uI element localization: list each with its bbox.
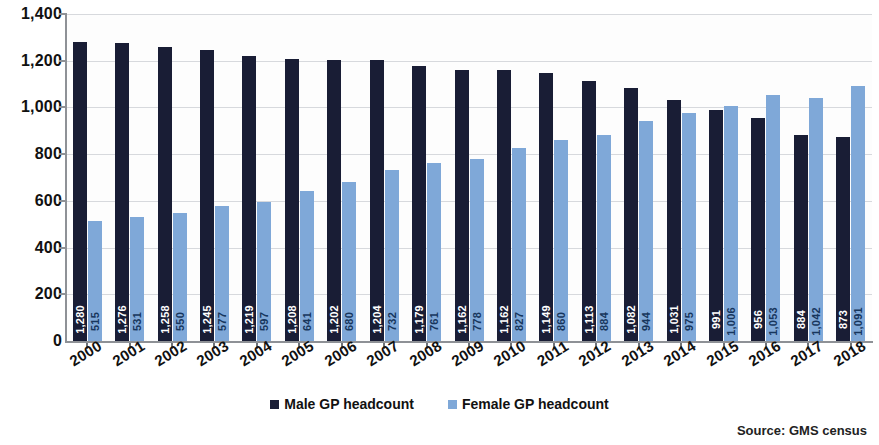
- y-axis-tick: [59, 106, 66, 108]
- bar-female[interactable]: 732: [385, 170, 399, 341]
- bar-male[interactable]: 1,276: [115, 43, 129, 341]
- bar-group: 1,219597: [236, 14, 278, 341]
- bar-group: 9911,006: [702, 14, 744, 341]
- bar-value-label: 680: [344, 312, 355, 331]
- bar-group: 1,276531: [108, 14, 150, 341]
- bar-male[interactable]: 884: [794, 135, 808, 341]
- x-axis-cell: 2017: [787, 343, 829, 395]
- bar-group: 1,202680: [321, 14, 363, 341]
- bar-group: 1,149860: [533, 14, 575, 341]
- y-axis-labels: 02004006008001,0001,2001,400: [0, 0, 62, 445]
- bar-female[interactable]: 860: [554, 140, 568, 341]
- bar-male[interactable]: 1,204: [370, 60, 384, 341]
- bar-female[interactable]: 1,091: [851, 86, 865, 341]
- y-axis-tick-label: 600: [4, 192, 62, 210]
- bar-group: 1,031975: [660, 14, 702, 341]
- x-axis-cell: 2008: [405, 343, 447, 395]
- x-axis-cell: 2003: [193, 343, 235, 395]
- y-axis-tick: [59, 13, 66, 15]
- x-axis-cell: 2012: [575, 343, 617, 395]
- bar-male[interactable]: 1,031: [667, 100, 681, 341]
- bar-group: 1,208641: [278, 14, 320, 341]
- bar-male[interactable]: 1,219: [242, 56, 256, 341]
- bar-female[interactable]: 577: [215, 206, 229, 341]
- bar-value-label: 1,082: [626, 305, 637, 334]
- bar-male[interactable]: 1,280: [73, 42, 87, 341]
- bar-value-label: 1,113: [583, 306, 594, 334]
- bar-value-label: 515: [89, 312, 100, 331]
- y-axis-tick: [59, 60, 66, 62]
- bar-male[interactable]: 956: [751, 118, 765, 341]
- bar-value-label: 1,280: [74, 305, 85, 334]
- bar-female[interactable]: 944: [639, 121, 653, 341]
- x-axis-cell: 2010: [490, 343, 532, 395]
- bar-female[interactable]: 884: [597, 135, 611, 341]
- bar-group: 1,204732: [363, 14, 405, 341]
- bar-value-label: 1,162: [456, 305, 467, 334]
- legend-swatch-male-icon: [270, 400, 279, 409]
- bar-male[interactable]: 1,245: [200, 50, 214, 341]
- x-axis-cell: 2004: [236, 343, 278, 395]
- bar-male[interactable]: 873: [836, 137, 850, 341]
- bar-male[interactable]: 1,258: [158, 47, 172, 341]
- bar-female[interactable]: 1,006: [724, 106, 738, 341]
- bar-group: 1,113884: [575, 14, 617, 341]
- bar-female[interactable]: 1,042: [809, 98, 823, 341]
- x-axis-cell: 2016: [745, 343, 787, 395]
- x-axis-cell: 2018: [830, 343, 872, 395]
- bar-female[interactable]: 975: [682, 113, 696, 341]
- y-axis-tick: [59, 200, 66, 202]
- bar-value-label: 1,258: [159, 305, 170, 334]
- bar-group: 1,179761: [405, 14, 447, 341]
- x-axis-cell: 2007: [363, 343, 405, 395]
- y-axis-tick-label: 800: [4, 145, 62, 163]
- bar-value-label: 991: [711, 310, 722, 329]
- bar-value-label: 1,245: [201, 305, 212, 334]
- bar-value-label: 1,162: [498, 305, 509, 334]
- bar-male[interactable]: 1,179: [412, 66, 426, 341]
- bar-male[interactable]: 1,202: [327, 60, 341, 341]
- legend-item-female[interactable]: Female GP headcount: [448, 396, 609, 412]
- legend-label: Male GP headcount: [284, 396, 414, 412]
- bar-female[interactable]: 680: [342, 182, 356, 341]
- bar-value-label: 860: [556, 312, 567, 331]
- bar-female[interactable]: 1,053: [766, 95, 780, 341]
- y-axis-tick: [59, 293, 66, 295]
- bar-male[interactable]: 1,162: [497, 70, 511, 341]
- bar-female[interactable]: 778: [470, 159, 484, 341]
- bar-value-label: 1,091: [853, 307, 864, 336]
- bar-male[interactable]: 1,208: [285, 59, 299, 341]
- bar-female[interactable]: 761: [427, 163, 441, 341]
- bar-group: 8841,042: [787, 14, 829, 341]
- bar-male[interactable]: 1,149: [539, 73, 553, 341]
- bar-female[interactable]: 515: [88, 221, 102, 341]
- legend-item-male[interactable]: Male GP headcount: [270, 396, 414, 412]
- bar-female[interactable]: 550: [173, 213, 187, 341]
- bar-value-label: 732: [386, 312, 397, 331]
- y-axis-tick-label: 200: [4, 285, 62, 303]
- bar-value-label: 761: [429, 312, 440, 331]
- bar-value-label: 1,204: [371, 305, 382, 334]
- y-axis-tick-label: 1,200: [4, 52, 62, 70]
- y-axis-tick-label: 0: [4, 332, 62, 350]
- bar-group: 8731,091: [830, 14, 872, 341]
- bar-value-label: 873: [838, 310, 849, 329]
- bar-male[interactable]: 1,162: [455, 70, 469, 341]
- bar-female[interactable]: 531: [130, 217, 144, 341]
- bar-value-label: 597: [259, 312, 270, 331]
- bar-value-label: 577: [216, 312, 227, 331]
- x-axis-cell: 2002: [151, 343, 193, 395]
- bar-female[interactable]: 827: [512, 148, 526, 341]
- bar-male[interactable]: 1,082: [624, 88, 638, 341]
- y-axis-tick-label: 1,000: [4, 98, 62, 116]
- bar-female[interactable]: 597: [257, 202, 271, 341]
- x-axis-cell: 2000: [66, 343, 108, 395]
- x-axis-cell: 2005: [278, 343, 320, 395]
- y-axis-tick: [59, 247, 66, 249]
- bar-value-label: 884: [795, 310, 806, 329]
- bar-value-label: 1,219: [244, 305, 255, 334]
- chart-legend: Male GP headcountFemale GP headcount: [0, 396, 879, 412]
- bar-male[interactable]: 1,113: [582, 81, 596, 341]
- bar-male[interactable]: 991: [709, 110, 723, 341]
- bar-female[interactable]: 641: [300, 191, 314, 341]
